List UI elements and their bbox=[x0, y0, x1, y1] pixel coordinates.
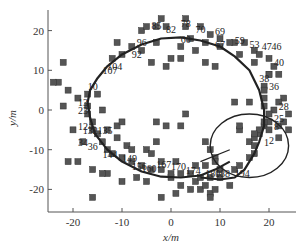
landmark-marker bbox=[286, 127, 292, 133]
point-label: 8 bbox=[274, 121, 279, 132]
point-label: 85 bbox=[151, 20, 161, 31]
landmark-marker bbox=[168, 55, 174, 61]
landmark-marker bbox=[261, 87, 267, 93]
landmark-marker bbox=[148, 59, 154, 65]
landmark-marker bbox=[99, 171, 105, 177]
landmark-marker bbox=[207, 194, 213, 200]
point-label: 132 bbox=[83, 125, 98, 136]
landmark-marker bbox=[163, 63, 169, 69]
point-label: 92 bbox=[132, 49, 142, 60]
x-tick-label: -10 bbox=[115, 216, 130, 228]
landmark-marker bbox=[119, 178, 125, 184]
point-label: 59 bbox=[235, 35, 245, 46]
landmark-marker bbox=[60, 103, 66, 109]
landmark-marker bbox=[153, 139, 159, 145]
y-tick-label: -10 bbox=[29, 144, 44, 156]
point-label: 36 bbox=[269, 81, 279, 92]
landmark-marker bbox=[207, 32, 213, 38]
landmark-marker bbox=[173, 190, 179, 196]
landmark-marker bbox=[227, 40, 233, 46]
y-ticks: -20-1001020 bbox=[29, 25, 52, 196]
point-label: 69 bbox=[215, 26, 225, 37]
point-label: 135 bbox=[98, 125, 113, 136]
y-tick-label: 10 bbox=[33, 64, 45, 76]
landmark-marker bbox=[237, 123, 243, 129]
point-label: 47 bbox=[262, 41, 272, 52]
point-label: 78 bbox=[181, 18, 191, 29]
scatter-chart: 8582787069606759534746403836282581296921… bbox=[0, 0, 306, 252]
landmark-marker bbox=[119, 119, 125, 125]
point-label: 96 bbox=[137, 37, 147, 48]
landmark-marker bbox=[148, 151, 154, 157]
landmark-marker bbox=[134, 174, 140, 180]
point-label: 82 bbox=[166, 24, 176, 35]
point-label: 10 bbox=[88, 81, 98, 92]
point-label: 46 bbox=[271, 41, 281, 52]
point-label: 160 bbox=[142, 163, 157, 174]
landmark-marker bbox=[178, 182, 184, 188]
y-tick-label: 20 bbox=[33, 25, 45, 37]
landmark-marker bbox=[178, 55, 184, 61]
landmark-marker bbox=[153, 119, 159, 125]
landmark-marker bbox=[50, 79, 56, 85]
landmark-marker bbox=[75, 159, 81, 165]
landmark-marker bbox=[266, 127, 272, 133]
x-tick-label: 0 bbox=[168, 216, 174, 228]
point-label: 53 bbox=[249, 39, 259, 50]
landmark-marker bbox=[114, 40, 120, 46]
y-tick-label: 0 bbox=[39, 104, 45, 116]
landmark-marker bbox=[202, 139, 208, 145]
x-ticks: -20-1001020 bbox=[66, 208, 275, 228]
point-label: 174 bbox=[186, 165, 201, 176]
point-label: 36 bbox=[88, 141, 98, 152]
y-axis-label: y/m bbox=[6, 110, 18, 127]
landmark-marker bbox=[158, 194, 164, 200]
point-label: 167 bbox=[156, 159, 171, 170]
landmark-marker bbox=[90, 194, 96, 200]
point-label: 34 bbox=[78, 137, 88, 148]
point-label: 194 bbox=[235, 168, 250, 179]
point-label: 70 bbox=[196, 24, 206, 35]
point-label: 38 bbox=[259, 73, 269, 84]
landmark-marker bbox=[90, 167, 96, 173]
landmark-marker bbox=[60, 59, 66, 65]
landmark-marker bbox=[114, 135, 120, 141]
landmark-marker bbox=[144, 178, 150, 184]
landmark-marker bbox=[183, 111, 189, 117]
point-label: 60 bbox=[181, 34, 191, 45]
landmark-marker bbox=[276, 135, 282, 141]
landmark-marker bbox=[163, 123, 169, 129]
x-tick-label: 20 bbox=[264, 216, 276, 228]
landmark-marker bbox=[232, 99, 238, 105]
landmark-marker bbox=[237, 51, 243, 57]
landmark-marker bbox=[99, 107, 105, 113]
trajectory-curves bbox=[88, 37, 289, 179]
x-tick-label: -20 bbox=[66, 216, 81, 228]
point-label: 2 bbox=[269, 135, 274, 146]
point-label: 107 bbox=[102, 65, 117, 76]
point-label: 67 bbox=[215, 39, 225, 50]
landmark-marker bbox=[212, 63, 218, 69]
point-label: 170 bbox=[171, 161, 186, 172]
landmark-marker bbox=[227, 182, 233, 188]
landmark-marker bbox=[188, 186, 194, 192]
landmark-marker bbox=[178, 123, 184, 129]
x-axis-label: x/m bbox=[162, 231, 179, 243]
point-label: 188 bbox=[215, 168, 230, 179]
point-label: 28 bbox=[279, 101, 289, 112]
landmark-marker bbox=[212, 186, 218, 192]
landmark-marker bbox=[266, 111, 272, 117]
landmark-marker bbox=[251, 131, 257, 137]
landmark-marker bbox=[202, 182, 208, 188]
point-label: 40 bbox=[274, 57, 284, 68]
landmark-marker bbox=[246, 99, 252, 105]
landmark-marker bbox=[144, 24, 150, 30]
point-label: 144 bbox=[102, 149, 117, 160]
landmark-marker bbox=[65, 159, 71, 165]
landmark-marker bbox=[65, 87, 71, 93]
landmark-marker bbox=[276, 71, 282, 77]
landmark-marker bbox=[193, 47, 199, 53]
landmark-marker bbox=[70, 127, 76, 133]
x-tick-label: 10 bbox=[215, 216, 227, 228]
point-label: 23 bbox=[78, 105, 88, 116]
